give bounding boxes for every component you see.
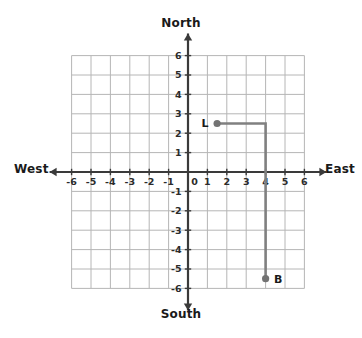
svg-text:-5: -5 bbox=[86, 176, 97, 187]
svg-text:6: 6 bbox=[175, 50, 182, 61]
svg-text:-3: -3 bbox=[171, 225, 182, 236]
svg-text:0: 0 bbox=[191, 176, 198, 187]
svg-text:-4: -4 bbox=[105, 176, 116, 187]
svg-text:-4: -4 bbox=[171, 244, 182, 255]
svg-text:-6: -6 bbox=[171, 283, 182, 294]
compass-label-west: West bbox=[14, 162, 49, 176]
compass-label-north: North bbox=[0, 16, 362, 30]
plotted-points: LB bbox=[202, 117, 283, 285]
svg-text:6: 6 bbox=[301, 176, 308, 187]
svg-text:5: 5 bbox=[282, 176, 289, 187]
compass-label-south: South bbox=[0, 307, 362, 321]
svg-text:-3: -3 bbox=[125, 176, 136, 187]
svg-text:1: 1 bbox=[175, 147, 182, 158]
compass-label-east: East bbox=[325, 162, 355, 176]
route-path bbox=[217, 124, 266, 279]
svg-text:L: L bbox=[202, 117, 209, 130]
svg-text:B: B bbox=[274, 273, 282, 286]
svg-text:1: 1 bbox=[204, 176, 211, 187]
coordinate-plane-svg: -6-5-4-3-2-10123456-6-5-4-3-2-1123456 LB bbox=[0, 0, 362, 338]
svg-text:2: 2 bbox=[175, 128, 182, 139]
svg-text:5: 5 bbox=[175, 69, 182, 80]
svg-text:4: 4 bbox=[175, 89, 182, 100]
svg-text:3: 3 bbox=[175, 108, 182, 119]
svg-text:3: 3 bbox=[243, 176, 250, 187]
svg-text:-6: -6 bbox=[66, 176, 77, 187]
coordinate-plane-figure: -6-5-4-3-2-10123456-6-5-4-3-2-1123456 LB… bbox=[0, 0, 362, 338]
svg-text:2: 2 bbox=[223, 176, 230, 187]
svg-text:-2: -2 bbox=[144, 176, 155, 187]
svg-text:-2: -2 bbox=[171, 205, 182, 216]
svg-text:-5: -5 bbox=[171, 263, 182, 274]
svg-text:-1: -1 bbox=[171, 186, 182, 197]
